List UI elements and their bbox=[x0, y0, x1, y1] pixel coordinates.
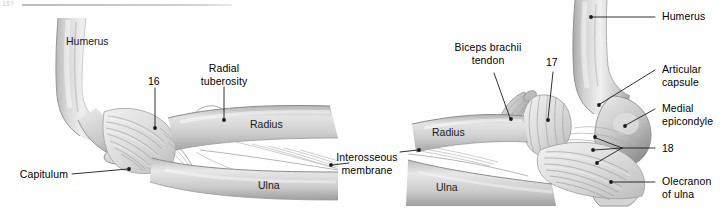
label-olecranon-of-ulna-line2: of ulna bbox=[662, 188, 694, 201]
anatomy-figure: 16? Humerus 16 Radial tuberosity Radius … bbox=[0, 0, 724, 211]
label-capitulum: Capitulum bbox=[0, 168, 68, 181]
anatomy-illustration-svg bbox=[0, 0, 724, 211]
label-number-17: 17 bbox=[546, 56, 558, 68]
label-radial-tuberosity-line1: Radial bbox=[186, 62, 262, 75]
page-number-top: 16? bbox=[2, 0, 14, 7]
label-radius-left: Radius bbox=[250, 118, 283, 130]
label-interosseous-membrane-line2: membrane bbox=[334, 164, 400, 177]
label-olecranon-of-ulna-line1: Olecranon bbox=[662, 175, 711, 188]
label-ulna-left: Ulna bbox=[258, 179, 280, 191]
label-radial-tuberosity-line2: tuberosity bbox=[186, 75, 262, 88]
label-radius-right: Radius bbox=[432, 126, 465, 138]
label-medial-epicondyle-line1: Medial bbox=[662, 102, 694, 115]
label-number-16: 16 bbox=[148, 75, 160, 87]
label-interosseous-membrane-line1: Interosseous bbox=[334, 151, 400, 164]
label-humerus-right: Humerus bbox=[662, 10, 705, 23]
label-humerus-left: Humerus bbox=[66, 35, 109, 47]
label-biceps-brachii-tendon-line1: Biceps brachii bbox=[440, 41, 536, 54]
label-articular-capsule-line1: Articular bbox=[662, 63, 701, 76]
header-rule bbox=[22, 4, 232, 5]
label-medial-epicondyle-line2: epicondyle bbox=[662, 115, 713, 128]
label-articular-capsule-line2: capsule bbox=[662, 76, 699, 89]
label-ulna-right: Ulna bbox=[436, 181, 458, 193]
label-biceps-brachii-tendon-line2: tendon bbox=[440, 54, 536, 67]
label-number-18: 18 bbox=[662, 142, 674, 154]
right-illustration bbox=[400, 0, 655, 206]
